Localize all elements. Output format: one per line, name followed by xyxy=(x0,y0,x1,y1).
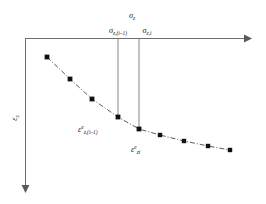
data-point-marker[interactable] xyxy=(182,139,186,143)
elastic-strain-curve xyxy=(47,57,230,150)
vertical-axis-label-subscript: z xyxy=(14,114,20,118)
horizontal-axis-label-subscript: z xyxy=(132,15,136,21)
vertical-axis-arrowhead xyxy=(22,185,30,193)
strain-prev-label: εez,(i–1) xyxy=(78,124,98,136)
vertical-axis-label: εz xyxy=(10,114,20,120)
data-point-marker[interactable] xyxy=(116,115,121,120)
sigma-prev-subscript: z,(i–1) xyxy=(112,30,127,37)
horizontal-axis-arrowhead xyxy=(244,35,252,43)
stress-strain-figure: σz εz σz,(i–1) σz,i εez,(i–1) εezi xyxy=(0,0,266,204)
labels-group: σz εz σz,(i–1) σz,i εez,(i–1) εezi xyxy=(10,11,152,155)
horizontal-axis-label: σz xyxy=(129,11,136,21)
sigma-prev-label: σz,(i–1) xyxy=(109,26,127,37)
sigma-curr-label: σz,i xyxy=(143,26,152,36)
data-point-marker[interactable] xyxy=(228,148,232,152)
data-point-marker[interactable] xyxy=(45,55,50,60)
strain-curr-subscript: zi xyxy=(136,149,141,155)
data-point-marker[interactable] xyxy=(206,144,210,148)
sigma-curr-subscript: z,i xyxy=(146,30,152,36)
curve-group xyxy=(47,57,230,150)
data-point-marker[interactable] xyxy=(137,127,142,132)
data-point-marker[interactable] xyxy=(158,133,162,137)
figure-container: σz εz σz,(i–1) σz,i εez,(i–1) εezi xyxy=(0,0,266,204)
drop-lines-group xyxy=(118,39,139,129)
data-point-marker[interactable] xyxy=(90,97,95,102)
data-markers-group xyxy=(45,55,233,153)
data-point-marker[interactable] xyxy=(68,77,73,82)
strain-curr-label: εezi xyxy=(131,144,141,155)
strain-prev-subscript: z,(i–1) xyxy=(83,129,98,136)
axes-group xyxy=(22,35,252,193)
